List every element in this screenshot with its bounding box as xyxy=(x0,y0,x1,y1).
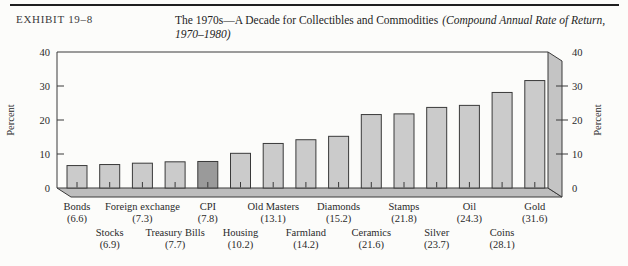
y-tick-label-right: 30 xyxy=(572,81,583,92)
category-value-bonds: (6.6) xyxy=(67,213,88,225)
y-tick-label-right: 40 xyxy=(572,47,583,58)
bar-coins xyxy=(492,92,512,188)
category-value-housing: (10.2) xyxy=(228,239,254,251)
bar-chart: 001010202030304040PercentPercentBonds(6.… xyxy=(0,0,628,266)
bar-ceramics xyxy=(361,115,381,188)
category-value-silver: (23.7) xyxy=(424,239,450,251)
category-label-treasury-bills: Treasury Bills xyxy=(145,227,204,238)
category-label-cpi: CPI xyxy=(200,201,217,212)
bar-old-masters xyxy=(263,143,283,188)
category-label-diamonds: Diamonds xyxy=(317,201,360,212)
y-tick-label-left: 40 xyxy=(40,47,51,58)
category-value-old-masters: (13.1) xyxy=(261,213,287,225)
category-label-old-masters: Old Masters xyxy=(247,201,299,212)
y-tick-label-right: 10 xyxy=(572,149,583,160)
category-label-bonds: Bonds xyxy=(64,201,91,212)
category-label-silver: Silver xyxy=(424,227,450,238)
bar-diamonds xyxy=(329,136,349,188)
chart-floor xyxy=(57,188,562,197)
y-tick-label-left: 30 xyxy=(40,81,51,92)
bar-oil xyxy=(459,105,479,188)
y-axis-title-right: Percent xyxy=(592,104,603,136)
bar-farmland xyxy=(296,140,316,188)
category-value-cpi: (7.8) xyxy=(198,213,219,225)
category-label-stamps: Stamps xyxy=(389,201,420,212)
category-label-coins: Coins xyxy=(490,227,515,238)
category-value-oil: (24.3) xyxy=(457,213,483,225)
category-label-farmland: Farmland xyxy=(286,227,327,238)
category-value-foreign-exchange: (7.3) xyxy=(132,213,153,225)
bar-silver xyxy=(427,107,447,188)
chart-right-wall xyxy=(548,52,562,197)
category-label-oil: Oil xyxy=(463,201,477,212)
category-label-stocks: Stocks xyxy=(96,227,124,238)
category-value-treasury-bills: (7.7) xyxy=(165,239,186,251)
y-tick-label-left: 20 xyxy=(40,115,51,126)
y-axis-title-left: Percent xyxy=(5,104,16,136)
y-tick-label-right: 20 xyxy=(572,115,583,126)
category-value-gold: (31.6) xyxy=(522,213,548,225)
exhibit-page: EXHIBIT 19–8 The 1970s—A Decade for Coll… xyxy=(0,0,628,266)
category-label-foreign-exchange: Foreign exchange xyxy=(105,201,180,212)
category-value-ceramics: (21.6) xyxy=(359,239,385,251)
category-value-farmland: (14.2) xyxy=(293,239,319,251)
category-value-diamonds: (15.2) xyxy=(326,213,352,225)
bar-gold xyxy=(525,81,545,188)
category-label-housing: Housing xyxy=(223,227,259,238)
category-value-stocks: (6.9) xyxy=(100,239,121,251)
category-value-coins: (28.1) xyxy=(489,239,515,251)
category-label-gold: Gold xyxy=(524,201,546,212)
y-tick-label-left: 10 xyxy=(40,149,51,160)
y-tick-label-right: 0 xyxy=(572,183,577,194)
bar-stamps xyxy=(394,114,414,188)
y-tick-label-left: 0 xyxy=(45,183,50,194)
category-label-ceramics: Ceramics xyxy=(351,227,391,238)
category-value-stamps: (21.8) xyxy=(391,213,417,225)
